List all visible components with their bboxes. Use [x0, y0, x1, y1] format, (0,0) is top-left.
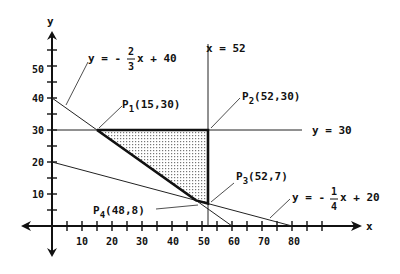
- line2-fraction-num: 1: [331, 186, 337, 197]
- y-tick-10: 10: [32, 189, 44, 200]
- p4-label: P4(48,8): [93, 204, 198, 220]
- line1-pointer: [66, 62, 88, 105]
- x-tick-80: 80: [288, 236, 300, 247]
- line2-rhs: x + 20: [340, 191, 380, 204]
- svg-text:P2(52,30): P2(52,30): [242, 90, 300, 106]
- p3-label: P3(52,7): [211, 170, 288, 202]
- svg-text:P1(15,30): P1(15,30): [122, 98, 180, 114]
- x-tick-60: 60: [228, 236, 240, 247]
- svg-text:P4(48,8): P4(48,8): [93, 204, 145, 220]
- line1-rhs: x + 40: [137, 52, 177, 65]
- y-tick-20: 20: [32, 157, 44, 168]
- x-tick-50: 50: [198, 236, 210, 247]
- x-tick-10: 10: [76, 236, 88, 247]
- y-tick-50: 50: [32, 64, 44, 75]
- p2-label: P2(52,30): [211, 90, 300, 128]
- svg-text:P3(52,7): P3(52,7): [236, 170, 288, 186]
- line1-fraction-den: 3: [128, 61, 134, 72]
- y-axis-label: y: [47, 15, 54, 28]
- linear-programming-graph: 10 20 30 40 50 60 70 80 10 20 30 40 50 y…: [0, 0, 400, 274]
- vline-label: x = 52: [206, 42, 246, 55]
- line2-label: y = -: [292, 191, 325, 204]
- y-tick-30: 30: [32, 125, 44, 136]
- x-tick-70: 70: [258, 236, 270, 247]
- line2-fraction-den: 4: [331, 201, 337, 212]
- x-tick-40: 40: [167, 236, 179, 247]
- p1-label: P1(15,30): [99, 98, 180, 128]
- hline-label: y = 30: [312, 124, 352, 137]
- x-tick-30: 30: [136, 236, 148, 247]
- x-axis-label: x: [366, 220, 373, 233]
- y-tick-40: 40: [32, 93, 44, 104]
- x-tick-20: 20: [106, 236, 118, 247]
- line1-fraction-num: 2: [128, 46, 134, 57]
- line2-pointer: [270, 199, 290, 218]
- line1-label: y = -: [88, 52, 121, 65]
